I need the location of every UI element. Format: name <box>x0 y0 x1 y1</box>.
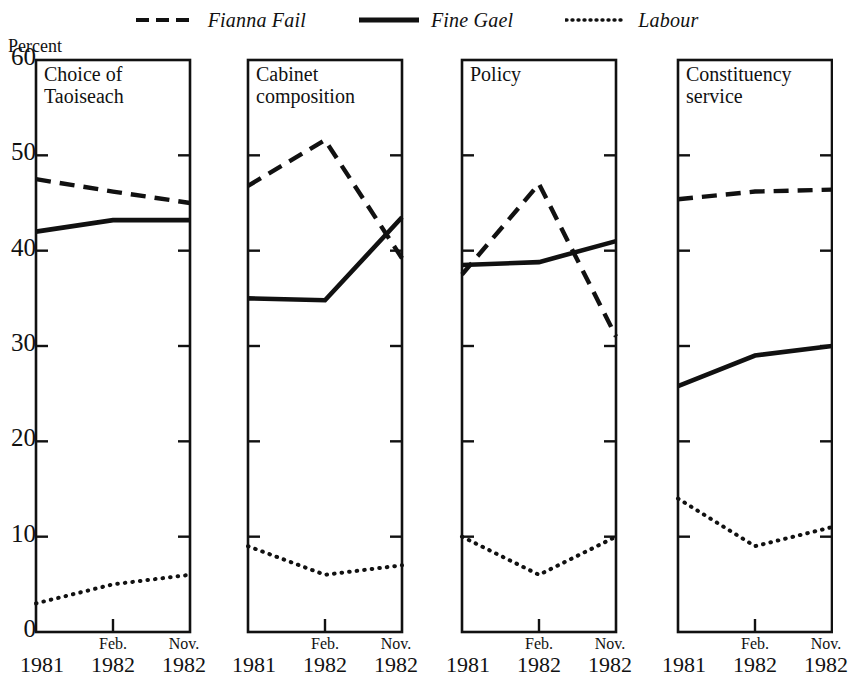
panel-frame <box>248 60 402 632</box>
series-line-fine-gael <box>678 346 832 386</box>
series-line-labour <box>248 546 402 575</box>
panel-frame <box>36 60 190 632</box>
series-line-labour <box>462 537 616 575</box>
series-line-labour <box>678 499 832 547</box>
series-line-labour <box>36 575 190 604</box>
series-line-fianna-fail <box>36 179 190 203</box>
series-line-fianna-fail <box>678 190 832 200</box>
series-line-fine-gael <box>36 220 190 231</box>
series-line-fine-gael <box>248 217 402 300</box>
panel-frame <box>462 60 616 632</box>
